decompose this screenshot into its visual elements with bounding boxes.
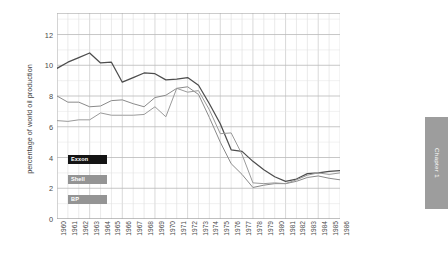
x-tick-label: 1979 bbox=[267, 221, 274, 236]
y-tick-label: 10 bbox=[31, 61, 53, 70]
chapter-tab: Chapter 1 bbox=[425, 117, 448, 209]
x-tick-label: 1981 bbox=[289, 221, 296, 236]
y-tick-label: 6 bbox=[31, 122, 53, 131]
legend-label: Exxon bbox=[71, 156, 88, 163]
x-tick-label: 1974 bbox=[212, 221, 219, 236]
x-tick-label: 1978 bbox=[256, 221, 263, 236]
oil-production-chart: percentage of world oil production 02468… bbox=[0, 0, 448, 269]
x-tick-label: 1969 bbox=[158, 221, 165, 236]
x-tick-label: 1961 bbox=[71, 221, 78, 236]
y-tick-label: 8 bbox=[31, 92, 53, 101]
chart-legend: ExxonShellBP bbox=[68, 155, 107, 215]
x-tick-label: 1972 bbox=[191, 221, 198, 236]
y-tick-label: 2 bbox=[31, 184, 53, 193]
legend-item-bp: BP bbox=[68, 195, 107, 204]
chapter-tab-label: Chapter 1 bbox=[433, 148, 440, 178]
x-tick-label: 1986 bbox=[343, 221, 350, 236]
x-tick-label: 1976 bbox=[234, 221, 241, 236]
x-tick-label: 1963 bbox=[93, 221, 100, 236]
x-tick-label: 1971 bbox=[180, 221, 187, 236]
x-tick-label: 1985 bbox=[332, 221, 339, 236]
x-axis-ticks: 1960196119621963196419651966196719681969… bbox=[57, 221, 340, 267]
legend-label: BP bbox=[71, 196, 79, 203]
x-tick-label: 1970 bbox=[169, 221, 176, 236]
x-tick-label: 1977 bbox=[245, 221, 252, 236]
x-tick-label: 1973 bbox=[202, 221, 209, 236]
chart-page: percentage of world oil production 02468… bbox=[0, 0, 448, 269]
legend-item-shell: Shell bbox=[68, 175, 107, 184]
y-tick-label: 4 bbox=[31, 153, 53, 162]
x-tick-label: 1984 bbox=[321, 221, 328, 236]
y-tick-label: 0 bbox=[31, 215, 53, 224]
x-tick-label: 1960 bbox=[60, 221, 67, 236]
x-tick-label: 1982 bbox=[299, 221, 306, 236]
x-tick-label: 1966 bbox=[125, 221, 132, 236]
x-tick-label: 1983 bbox=[310, 221, 317, 236]
x-tick-label: 1975 bbox=[223, 221, 230, 236]
y-tick-label: 12 bbox=[31, 30, 53, 39]
legend-label: Shell bbox=[71, 176, 85, 183]
x-tick-label: 1968 bbox=[147, 221, 154, 236]
x-tick-label: 1980 bbox=[278, 221, 285, 236]
legend-item-exxon: Exxon bbox=[68, 155, 107, 164]
x-tick-label: 1967 bbox=[136, 221, 143, 236]
x-tick-label: 1965 bbox=[114, 221, 121, 236]
x-tick-label: 1964 bbox=[104, 221, 111, 236]
y-axis-ticks: 024681012 bbox=[31, 13, 53, 219]
x-tick-label: 1962 bbox=[82, 221, 89, 236]
